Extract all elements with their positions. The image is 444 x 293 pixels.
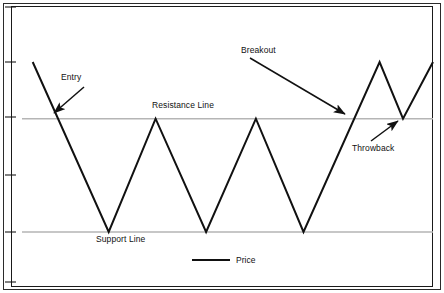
resistance-line-label: Resistance Line — [152, 100, 214, 110]
entry-arrow — [54, 87, 84, 113]
breakout-arrow — [250, 58, 345, 114]
throwback-arrow — [371, 121, 398, 141]
annotation-label-entry: Entry — [61, 72, 81, 82]
legend-swatch-price — [192, 259, 230, 261]
chart-figure: Entry Breakout Throwback Resistance Line… — [0, 0, 444, 293]
support-line-label: Support Line — [96, 234, 145, 244]
y-axis-ticks — [5, 7, 16, 282]
annotation-label-throwback: Throwback — [352, 143, 394, 153]
chart-legend: Price — [192, 255, 255, 265]
annotation-label-breakout: Breakout — [241, 45, 276, 55]
legend-label-price: Price — [236, 255, 255, 265]
